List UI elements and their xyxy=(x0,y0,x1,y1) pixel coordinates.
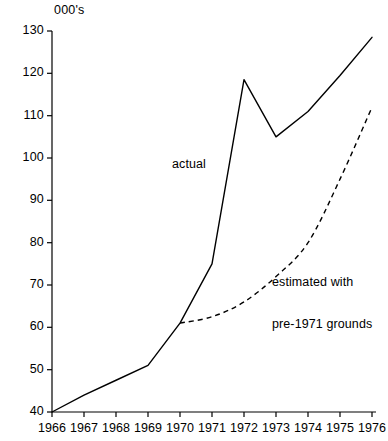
annotation-estimated-line2: pre-1971 grounds xyxy=(272,317,372,331)
y-axis-tick-label: 40 xyxy=(4,404,44,418)
y-axis-tick-label: 90 xyxy=(4,192,44,206)
line-chart: 000's 130120110100908070605040 196619671… xyxy=(0,0,388,441)
x-tick-marks xyxy=(52,412,372,417)
chart-plot-area xyxy=(0,0,388,441)
annotation-estimated-line1: estimated with xyxy=(272,275,372,289)
x-axis-tick-label: 1976 xyxy=(349,421,388,435)
y-axis-tick-label: 70 xyxy=(4,277,44,291)
y-axis-tick-label: 50 xyxy=(4,362,44,376)
y-axis-tick-label: 100 xyxy=(4,150,44,164)
y-tick-marks xyxy=(47,31,52,412)
y-axis-tick-label: 110 xyxy=(4,108,44,122)
y-axis-tick-label: 80 xyxy=(4,235,44,249)
y-axis-tick-label: 60 xyxy=(4,319,44,333)
y-axis-tick-label: 130 xyxy=(4,23,44,37)
y-axis-tick-label: 120 xyxy=(4,65,44,79)
annotation-actual: actual xyxy=(172,157,206,171)
annotation-estimated: estimated with pre-1971 grounds xyxy=(272,247,372,359)
